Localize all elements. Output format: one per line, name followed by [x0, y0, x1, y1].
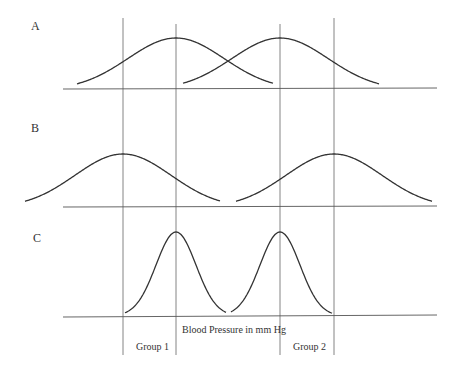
axis-b	[63, 206, 437, 207]
group-2-label: Group 2	[293, 341, 326, 352]
panel-label-b: B	[31, 121, 39, 136]
panel-label-c: C	[33, 231, 41, 246]
curve-a-group-2	[183, 38, 379, 84]
curve-b-group-1	[25, 154, 220, 201]
axis-a	[63, 88, 437, 89]
x-axis-label: Blood Pressure in mm Hg	[182, 324, 286, 335]
curve-a-group-1	[77, 38, 273, 84]
panel-label-a: A	[31, 19, 40, 34]
figure: A B C Blood Pressure in mm Hg Group 1 Gr…	[0, 0, 463, 375]
axes	[63, 88, 437, 317]
diagram-svg	[0, 0, 463, 375]
curve-c-group-2	[231, 232, 332, 313]
vertical-lines	[123, 18, 334, 355]
curve-c-group-1	[125, 232, 226, 313]
axis-c	[63, 315, 437, 317]
group-1-label: Group 1	[136, 341, 169, 352]
curves	[25, 38, 432, 313]
